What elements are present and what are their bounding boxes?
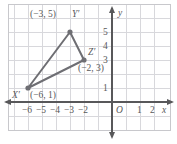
x-tick--6: −6 xyxy=(22,106,32,116)
y-tick-4: 4 xyxy=(103,42,108,52)
x-tick-2: 2 xyxy=(150,106,155,116)
x-tick--2: −2 xyxy=(78,106,88,116)
coordinate-plane-figure: y x O −6 −5 −4 −3 −2 1 2 5 4 3 1 (−3, 5)… xyxy=(0,0,177,144)
y-tick-5: 5 xyxy=(103,28,108,38)
x-tick--5: −5 xyxy=(36,106,46,116)
vertex-label-x-prime: X′ xyxy=(12,91,20,101)
vertex-coord-y-prime: (−3, 5) xyxy=(30,10,56,20)
x-axis-label: x xyxy=(162,106,166,116)
x-tick--4: −4 xyxy=(50,106,60,116)
y-tick-1: 1 xyxy=(103,84,108,94)
vertex-label-y-prime: Y′ xyxy=(72,10,79,20)
x-tick-1: 1 xyxy=(137,106,142,116)
origin-label: O xyxy=(116,106,123,116)
y-axis-arrow-up xyxy=(109,6,115,13)
y-axis-arrow-down xyxy=(109,132,115,139)
y-axis-label: y xyxy=(118,9,122,19)
vertex-coord-z-prime: (−2, 3) xyxy=(78,64,104,74)
vertex-coord-x-prime: (−6, 1) xyxy=(30,91,56,101)
vertex-label-z-prime: Z′ xyxy=(88,48,95,58)
vertex-point-y-prime xyxy=(67,29,72,34)
vertex-point-z-prime xyxy=(81,57,86,62)
x-tick--3: −3 xyxy=(64,106,74,116)
